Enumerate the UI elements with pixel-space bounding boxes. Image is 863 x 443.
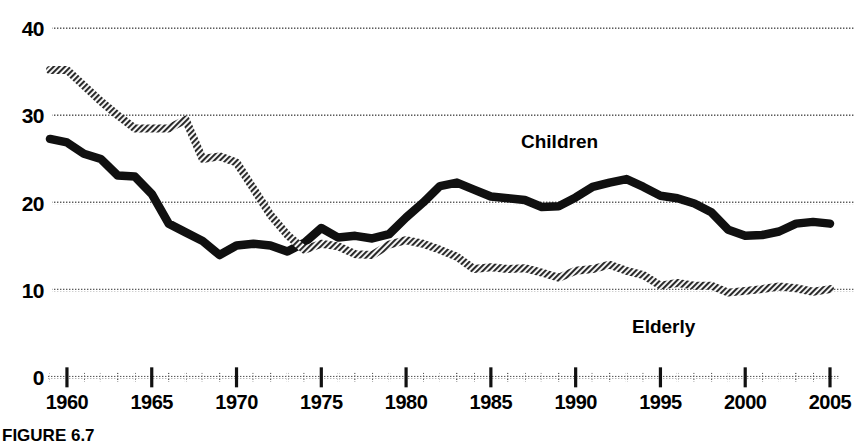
x-axis-minor-tick [456, 373, 458, 382]
x-axis [47, 367, 840, 387]
x-axis-minor-tick [219, 373, 221, 382]
x-axis-minor-tick [185, 373, 187, 382]
x-axis-minor-tick [541, 373, 543, 382]
series-label-children: Children [521, 132, 598, 151]
x-axis-minor-tick [642, 373, 644, 382]
x-axis-minor-tick [337, 373, 339, 382]
x-axis-minor-tick [83, 373, 85, 382]
x-axis-minor-tick [710, 373, 712, 382]
x-axis-tick-label: 1980 [371, 392, 441, 412]
x-axis-major-tick [659, 367, 662, 387]
x-axis-minor-tick [558, 373, 560, 382]
x-axis-tick-label: 1985 [456, 392, 526, 412]
x-axis-minor-tick [812, 373, 814, 382]
x-axis-minor-tick [524, 373, 526, 382]
x-axis-minor-tick [422, 373, 424, 382]
x-axis-minor-tick [473, 373, 475, 382]
x-axis-minor-tick [388, 373, 390, 382]
figure-container: 010203040 196019651970197519801985199019… [0, 0, 863, 443]
x-axis-minor-tick [354, 373, 356, 382]
x-axis-minor-tick [761, 373, 763, 382]
x-axis-tick-label: 1965 [117, 392, 187, 412]
x-axis-minor-tick [592, 373, 594, 382]
series-layer [50, 70, 830, 293]
x-axis-major-tick [489, 367, 492, 387]
x-axis-tick-label: 1975 [286, 392, 356, 412]
x-axis-minor-tick [439, 373, 441, 382]
x-axis-minor-tick [202, 373, 204, 382]
y-axis-tick-label: 10 [0, 280, 44, 301]
gridline [52, 201, 855, 204]
y-axis-tick-label: 30 [0, 105, 44, 126]
x-axis-major-tick [404, 367, 407, 387]
x-axis-minor-tick [269, 373, 271, 382]
x-axis-minor-tick [168, 373, 170, 382]
x-axis-tick-label: 2005 [795, 392, 863, 412]
series-line-children [50, 139, 830, 255]
x-axis-minor-tick [795, 373, 797, 382]
y-axis-tick-label: 0 [0, 367, 44, 388]
x-axis-minor-tick [303, 373, 305, 382]
x-axis-tick-label: 1970 [202, 392, 272, 412]
x-axis-major-tick [744, 367, 747, 387]
x-axis-minor-tick [693, 373, 695, 382]
x-axis-minor-tick [609, 373, 611, 382]
x-axis-minor-tick [134, 373, 136, 382]
x-axis-minor-tick [626, 373, 628, 382]
x-axis-major-tick [235, 367, 238, 387]
x-axis-minor-tick [676, 373, 678, 382]
x-axis-minor-tick [117, 373, 119, 382]
x-axis-major-tick [574, 367, 577, 387]
x-axis-tick-label: 1995 [625, 392, 695, 412]
x-axis-major-tick [828, 367, 831, 387]
x-axis-major-tick [320, 367, 323, 387]
gridline [52, 27, 855, 30]
x-axis-line [47, 376, 840, 379]
x-axis-minor-tick [371, 373, 373, 382]
x-axis-minor-tick [727, 373, 729, 382]
series-label-elderly: Elderly [632, 317, 695, 336]
x-axis-major-tick [65, 367, 68, 387]
line-chart-plot [0, 0, 863, 443]
figure-caption: FIGURE 6.7 [2, 427, 95, 443]
y-axis-tick-label: 40 [0, 18, 44, 39]
x-axis-minor-tick [778, 373, 780, 382]
gridline [52, 114, 855, 117]
x-axis-minor-tick [49, 373, 51, 382]
y-axis-tick-label: 20 [0, 192, 44, 213]
x-axis-minor-tick [286, 373, 288, 382]
x-axis-minor-tick [507, 373, 509, 382]
x-axis-minor-tick [100, 373, 102, 382]
x-axis-tick-label: 1990 [541, 392, 611, 412]
x-axis-minor-tick [252, 373, 254, 382]
x-axis-tick-label: 2000 [710, 392, 780, 412]
series-line-elderly [50, 70, 830, 293]
x-axis-tick-label: 1960 [32, 392, 102, 412]
x-axis-major-tick [150, 367, 153, 387]
